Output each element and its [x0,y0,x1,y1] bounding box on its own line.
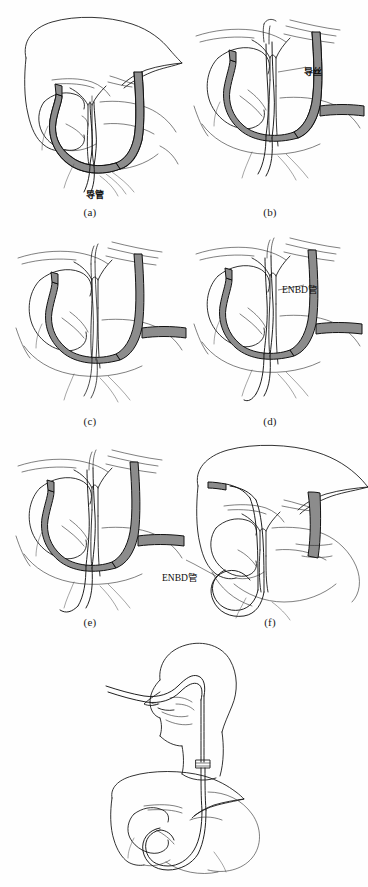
panel-g-illustration [104,642,276,882]
panel-b-caption: (b) [258,206,282,218]
panel-d-caption: (d) [258,415,282,427]
figure-sheet: (a) 导管 [0,0,368,887]
panel-d-illustration [192,232,364,416]
panel-e-illustration [14,444,184,616]
panel-a-illustration [4,6,184,206]
panel-d [192,232,364,416]
panel-f-caption: (f) [258,616,282,628]
panel-b [190,6,366,206]
panel-a-caption: (a) [78,206,102,218]
panel-e-caption: (e) [78,616,102,628]
panel-c-caption: (c) [78,415,102,427]
panel-f [172,444,368,616]
panel-c [14,232,184,416]
panel-a [4,6,184,206]
panel-b-callout-guidewire: 导丝 [304,65,322,78]
panel-e [14,444,184,616]
panel-c-illustration [14,232,184,416]
panel-b-illustration [190,6,366,206]
panel-d-callout-enbd-tube: ENBD管 [282,282,318,296]
panel-f-callout-enbd-tube: ENBD管 [162,570,198,584]
panel-g [104,642,276,882]
panel-a-callout-catheter: 导管 [86,188,104,201]
panel-f-illustration [172,444,368,616]
